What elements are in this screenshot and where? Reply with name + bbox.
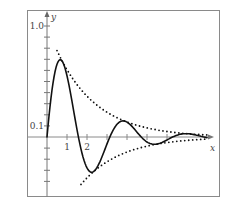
axes [28, 11, 215, 197]
tick-labels: 121.00.1 [30, 21, 90, 152]
ticks [44, 26, 167, 181]
x-axis-label: x [210, 143, 215, 153]
y-tick-label: 1.0 [30, 21, 45, 31]
y-tick-label: 0.1 [30, 121, 44, 131]
upper-envelope-line [57, 51, 207, 135]
y-axis-arrow-icon [45, 11, 50, 17]
chart-frame [28, 11, 220, 197]
chart: x y 121.00.1 [0, 0, 246, 211]
y-axis-label: y [50, 12, 57, 22]
x-axis-arrow-icon [208, 135, 214, 140]
x-tick-label: 2 [84, 142, 90, 152]
x-tick-label: 1 [64, 142, 70, 152]
series-group [47, 50, 207, 185]
damped-curve-line [47, 60, 207, 173]
